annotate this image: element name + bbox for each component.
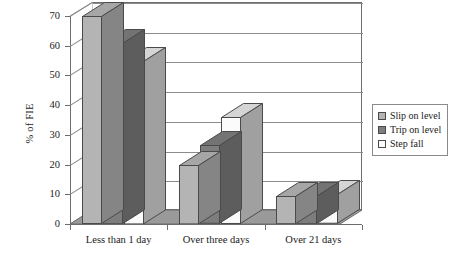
chart-figure: 010203040506070 % of FIE Less than 1 day… [0,0,475,269]
gridline [93,3,363,4]
legend-swatch-icon [378,140,386,148]
legend-item-3: Step fall [378,137,441,151]
x-tick-label: Over three days [167,234,264,245]
bar-3-1 [276,182,318,224]
legend-item-2: Trip on level [378,123,441,137]
x-tick-mark [362,225,363,230]
chart-legend: Slip on levelTrip on levelStep fall [372,104,448,156]
legend-label: Trip on level [390,125,441,135]
y-tick-label: 0 [24,219,60,229]
y-tick-label: 20 [24,160,60,170]
x-tick-label: Over 21 days [265,234,362,245]
y-tick-label: 10 [24,189,60,199]
y-tick-label: 70 [24,11,60,21]
x-tick-mark [167,225,168,230]
legend-label: Step fall [390,139,424,149]
bar-shape [276,182,318,224]
legend-swatch-icon [378,112,386,120]
x-tick-label: Less than 1 day [70,234,167,245]
bar-shape [179,151,221,224]
legend-label: Slip on level [390,111,441,121]
plot-area: 010203040506070 % of FIE Less than 1 day… [0,0,475,269]
y-axis-title: % of FIE [24,89,35,159]
legend-swatch-icon [378,126,386,134]
legend-item-1: Slip on level [378,109,441,123]
bar-shape [82,2,124,224]
y-tick-label: 50 [24,70,60,80]
x-tick-mark [265,225,266,230]
x-tick-mark [70,225,71,230]
bar-2-1 [179,151,221,224]
bar-1-1 [82,2,124,224]
y-tick-label: 60 [24,41,60,51]
x-axis-line [70,224,362,225]
